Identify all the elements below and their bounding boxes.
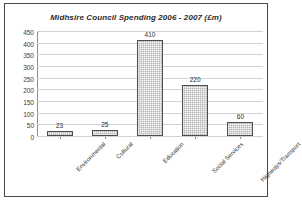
bar[interactable] bbox=[47, 131, 73, 136]
x-axis-category-label: Cultural bbox=[115, 141, 134, 160]
plot-area: 050100150200250300350400450 232541022060 bbox=[37, 32, 263, 137]
y-axis-tick-label: 250 bbox=[23, 75, 34, 82]
y-axis-tick-label: 200 bbox=[23, 87, 34, 94]
x-axis-tick bbox=[195, 137, 196, 139]
y-axis-tick-label: 400 bbox=[23, 40, 34, 47]
y-axis-tick-label: 0 bbox=[30, 134, 34, 141]
bar[interactable] bbox=[92, 130, 118, 136]
bar[interactable] bbox=[182, 85, 208, 136]
bar-value-label: 25 bbox=[101, 121, 108, 128]
x-axis-category-label: Social Services bbox=[211, 141, 244, 174]
bar-value-label: 220 bbox=[190, 76, 201, 83]
y-axis-tick-label: 450 bbox=[23, 29, 34, 36]
x-axis-category-label: Education bbox=[162, 141, 185, 164]
y-axis-line bbox=[37, 32, 38, 137]
x-axis-category-label: Highways/Transport bbox=[260, 141, 276, 183]
bar-value-label: 410 bbox=[145, 31, 156, 38]
y-axis-tick-label: 100 bbox=[23, 110, 34, 117]
x-axis-tick bbox=[150, 137, 151, 139]
y-axis-tick-label: 150 bbox=[23, 99, 34, 106]
y-axis-tick-label: 50 bbox=[27, 122, 34, 129]
x-axis-category-label: Environmental bbox=[75, 141, 106, 172]
bar-value-label: 60 bbox=[237, 113, 244, 120]
y-axis-tick-label: 300 bbox=[23, 64, 34, 71]
x-axis-tick bbox=[240, 137, 241, 139]
bar[interactable] bbox=[137, 40, 163, 136]
bar-value-label: 23 bbox=[56, 122, 63, 129]
x-axis-tick bbox=[105, 137, 106, 139]
y-axis-tick-label: 350 bbox=[23, 52, 34, 59]
x-axis-tick bbox=[60, 137, 61, 139]
chart-title: Midhsire Council Spending 2006 - 2007 (£… bbox=[5, 13, 267, 22]
chart-frame: Midhsire Council Spending 2006 - 2007 (£… bbox=[4, 3, 268, 197]
bar[interactable] bbox=[227, 122, 253, 136]
